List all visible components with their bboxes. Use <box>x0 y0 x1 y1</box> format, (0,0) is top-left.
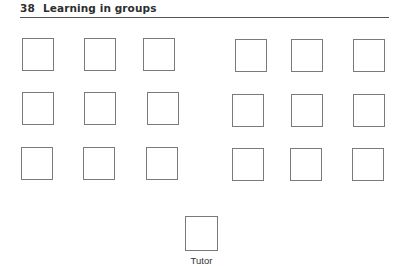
student-seat <box>235 39 267 72</box>
student-seat <box>147 92 179 125</box>
page-number: 38 <box>20 2 43 14</box>
student-seat <box>232 148 264 181</box>
tutor-seat <box>185 216 218 251</box>
running-title: Learning in groups <box>43 2 156 14</box>
header-rule <box>20 17 389 18</box>
student-seat <box>291 39 323 72</box>
student-seat <box>21 147 53 180</box>
tutor-label: Tutor <box>183 255 220 266</box>
student-seat <box>83 147 115 180</box>
student-seat <box>22 38 54 71</box>
student-seat <box>352 148 384 181</box>
student-seat <box>84 92 116 125</box>
student-seat <box>353 39 385 72</box>
student-seat <box>146 147 178 180</box>
student-seat <box>84 38 116 71</box>
running-header: 38 Learning in groups <box>20 1 156 15</box>
student-seat <box>22 92 54 125</box>
student-seat <box>353 94 385 127</box>
student-seat <box>291 94 323 127</box>
student-seat <box>232 94 264 127</box>
student-seat <box>290 148 322 181</box>
student-seat <box>143 38 175 71</box>
